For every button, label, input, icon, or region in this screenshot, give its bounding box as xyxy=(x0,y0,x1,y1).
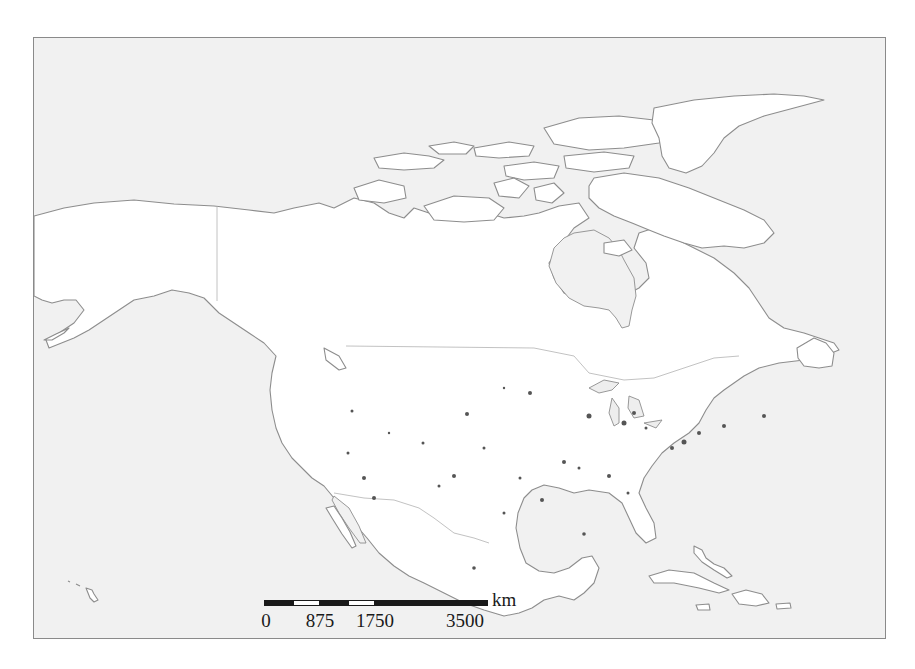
scale-tick-1750: 1750 xyxy=(356,610,394,632)
banks-island xyxy=(354,180,406,203)
southampton-island xyxy=(604,240,632,256)
greenland xyxy=(652,94,824,173)
devon-island xyxy=(564,152,634,172)
victoria-island xyxy=(424,196,504,222)
bahamas xyxy=(694,546,732,578)
hispaniola xyxy=(732,590,769,606)
scale-segment xyxy=(320,600,348,606)
north-america-map xyxy=(34,38,886,639)
arctic-island-2 xyxy=(429,142,474,154)
scale-bar xyxy=(264,600,488,606)
map-frame xyxy=(33,37,886,639)
jamaica xyxy=(696,604,710,610)
scale-tick-0: 0 xyxy=(261,610,271,632)
hawaii xyxy=(68,581,98,602)
prince-of-wales-island xyxy=(494,178,529,198)
arctic-island-3 xyxy=(474,142,534,158)
cuba xyxy=(649,570,729,593)
scale-segment xyxy=(293,600,320,606)
arctic-island-1 xyxy=(374,153,444,170)
scale-segment xyxy=(375,600,488,606)
scale-segment xyxy=(348,600,375,606)
somerset-island xyxy=(534,183,564,203)
scale-tick-875: 875 xyxy=(306,610,335,632)
baffin-island xyxy=(589,173,774,248)
arctic-island-4 xyxy=(504,162,559,180)
scale-tick-3500: 3500 xyxy=(446,610,484,632)
scale-segment xyxy=(264,600,293,606)
puerto-rico xyxy=(776,603,791,609)
mainland-north-america xyxy=(34,198,839,616)
scale-unit: km xyxy=(492,589,516,611)
